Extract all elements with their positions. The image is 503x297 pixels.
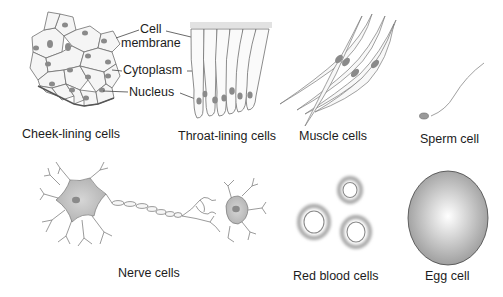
- caption-cheek-lining-cells: Cheek-lining cells: [22, 127, 120, 141]
- callout-cytoplasm: Cytoplasm: [123, 64, 182, 77]
- nerve-nucleus-left: [72, 197, 80, 204]
- callout-cell-membrane-line2: membrane: [121, 37, 181, 50]
- red-blood-cells-illustration: [299, 178, 370, 247]
- caption-sperm-cell: Sperm cell: [420, 132, 479, 146]
- caption-egg-cell: Egg cell: [425, 269, 469, 283]
- throat-lining-cells-illustration: [191, 22, 271, 118]
- sperm-cell-illustration: [420, 63, 485, 119]
- cheek-lining-cells-illustration: [30, 12, 120, 106]
- callout-nucleus: Nucleus: [129, 86, 174, 99]
- muscle-cells-illustration: [280, 14, 396, 126]
- caption-nerve-cells: Nerve cells: [118, 266, 180, 280]
- caption-throat-lining-cells: Throat-lining cells: [178, 129, 276, 143]
- caption-muscle-cells: Muscle cells: [299, 129, 367, 143]
- cell-types-diagram: [0, 0, 503, 297]
- caption-red-blood-cells: Red blood cells: [293, 269, 378, 283]
- nerve-nucleus-right: [232, 206, 240, 212]
- egg-cell-illustration: [408, 171, 488, 265]
- nerve-cells-illustration: [40, 162, 266, 246]
- callout-cell-membrane-line1: Cell: [140, 23, 162, 36]
